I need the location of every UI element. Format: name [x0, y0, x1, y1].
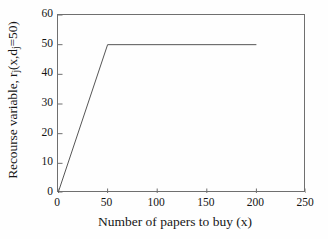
y-axis-label-container: Recourse variable, rj(x,dj=50) — [0, 0, 26, 200]
y-axis-label-mid: (x,d — [5, 49, 20, 70]
chart-figure: Recourse variable, rj(x,dj=50) 010203040… — [0, 0, 328, 239]
x-tick-label: 100 — [136, 197, 176, 209]
y-tick-label: 0 — [27, 186, 53, 198]
x-tick-label: 200 — [235, 197, 275, 209]
plot-canvas — [58, 15, 306, 193]
y-tick-label: 30 — [27, 97, 53, 109]
y-tick-label: 20 — [27, 127, 53, 139]
y-tick-label: 40 — [27, 67, 53, 79]
x-axis-label: Number of papers to buy (x) — [40, 214, 310, 230]
y-tick-label: 10 — [27, 156, 53, 168]
data-line-recourse — [58, 45, 256, 193]
y-tick-label: 50 — [27, 38, 53, 50]
y-tick-label: 60 — [27, 8, 53, 20]
plot-area — [57, 14, 305, 192]
y-axis-label-subscript-1: j — [11, 70, 21, 73]
x-tick-label: 150 — [186, 197, 226, 209]
data-series-group — [58, 45, 256, 193]
tick-marks — [58, 15, 306, 193]
y-axis-label: Recourse variable, rj(x,dj=50) — [5, 21, 21, 179]
y-axis-label-lead: Recourse variable, r — [5, 72, 20, 178]
x-tick-label: 0 — [37, 197, 77, 209]
x-tick-label: 50 — [87, 197, 127, 209]
x-tick-label: 250 — [285, 197, 325, 209]
y-axis-label-tail: =50) — [5, 21, 20, 46]
